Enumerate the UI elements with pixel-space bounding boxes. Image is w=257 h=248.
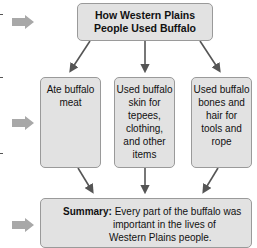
detail-line: and other — [115, 135, 174, 148]
detail-line: hair for — [192, 109, 251, 122]
summary-line: Western Plains people. — [63, 231, 251, 244]
detail-box-skin: Used buffalo skin for tepees, clothing, … — [114, 77, 175, 168]
detail-line: tools and — [192, 122, 251, 135]
detail-line: bones and — [192, 96, 251, 109]
summary-label: Summary: — [63, 206, 112, 217]
detail-line: skin for — [115, 96, 174, 109]
summary-box: Summary: Every part of the buffalo was i… — [40, 198, 252, 248]
title-line: People Used Buffalo — [78, 22, 212, 35]
detail-box-bones: Used buffalo bones and hair for tools an… — [191, 77, 252, 168]
detail-line: tepees, — [115, 109, 174, 122]
main-idea-box: How Western Plains People Used Buffalo — [77, 3, 213, 41]
detail-line: Used buffalo — [115, 83, 174, 96]
detail-line: Ate buffalo — [41, 83, 100, 96]
detail-line: meat — [41, 96, 100, 109]
detail-box-meat: Ate buffalo meat — [40, 77, 101, 168]
detail-line: items — [115, 148, 174, 161]
title-line: How Western Plains — [78, 9, 212, 22]
summary-line: important in the lives of — [63, 218, 251, 231]
detail-line: rope — [192, 135, 251, 148]
summary-line: Summary: Every part of the buffalo was — [63, 205, 251, 218]
detail-line: clothing, — [115, 122, 174, 135]
summary-text: Every part of the buffalo was — [115, 206, 242, 217]
detail-line: Used buffalo — [192, 83, 251, 96]
